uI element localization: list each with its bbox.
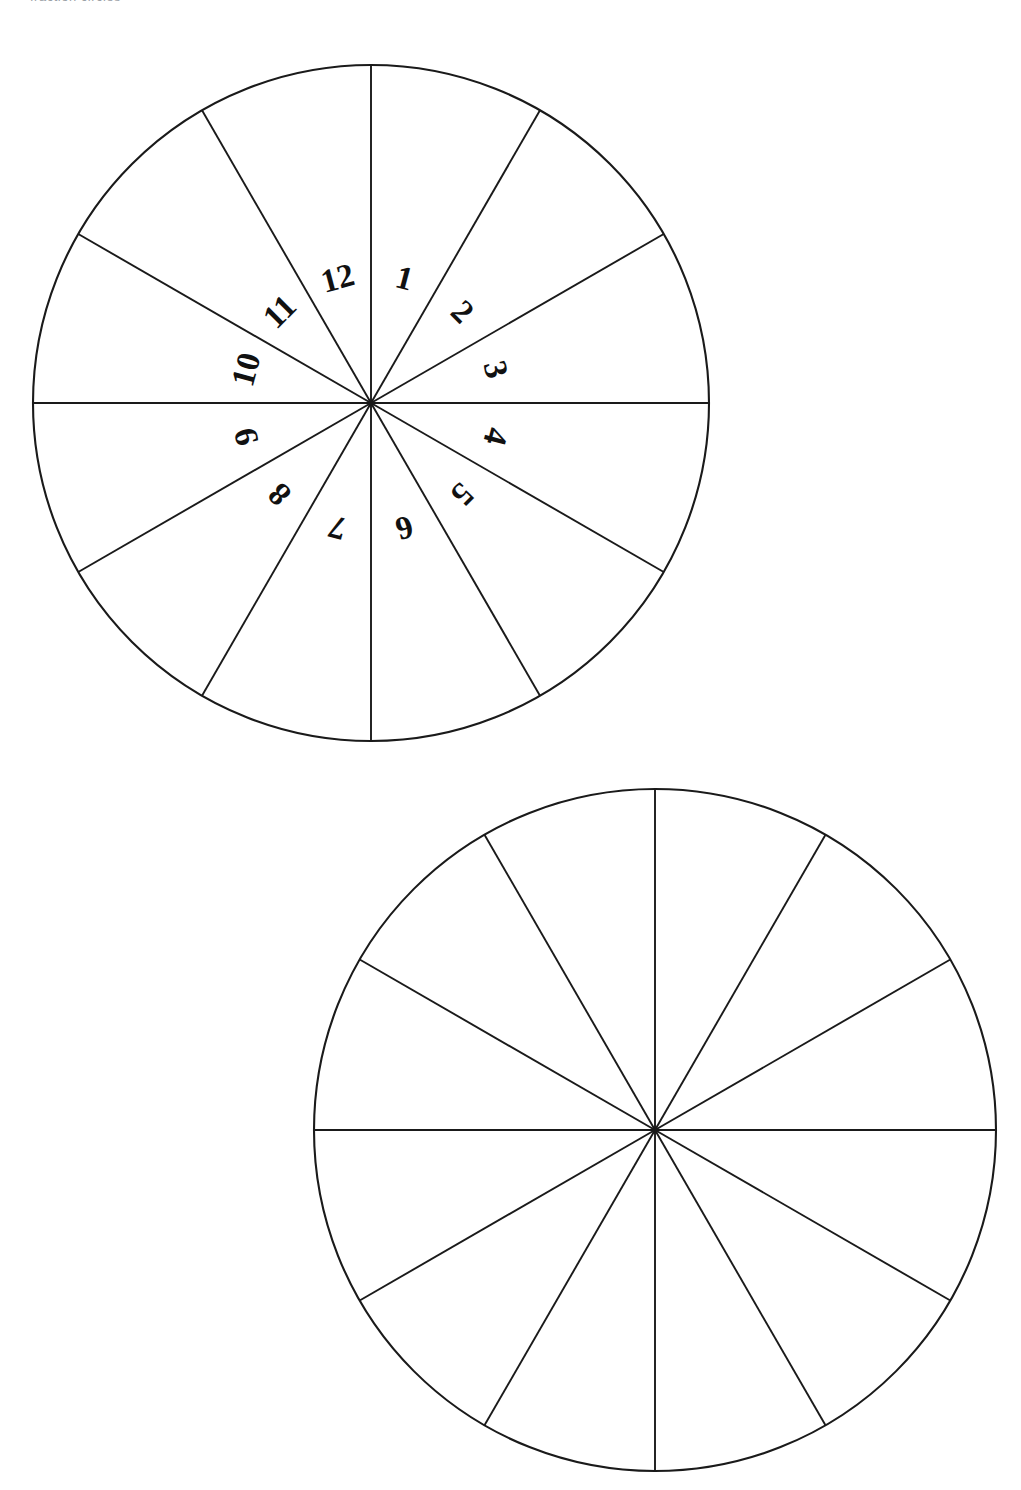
circle-center-dot-top xyxy=(368,400,374,406)
page-header-text: fraction circles xyxy=(30,0,121,4)
blank-twelfths-circle xyxy=(302,777,1008,1483)
labelled-twelfths-circle: 123456789101112 xyxy=(21,53,721,753)
circle-center-dot-bottom xyxy=(652,1127,658,1133)
worksheet-page: fraction circles 123456789101112 xyxy=(0,0,1021,1490)
